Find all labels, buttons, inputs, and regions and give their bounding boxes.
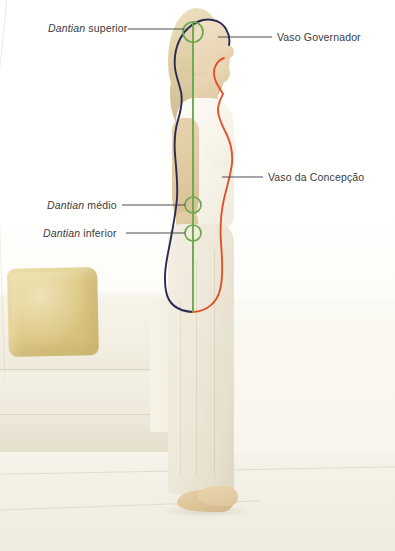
label-dantian-medio-qualifier: médio xyxy=(87,199,116,211)
label-dantian-inferior-term: Dantian xyxy=(43,227,80,239)
label-vaso-concepcao: Vaso da Concepção xyxy=(268,171,364,183)
vaso-concepcao-path xyxy=(193,58,232,312)
illustration-canvas: Dantian superior Dantian médio Dantian i… xyxy=(0,0,395,551)
label-dantian-superior-term: Dantian xyxy=(48,22,85,34)
vaso-governador-path xyxy=(165,19,229,312)
label-dantian-superior: Dantian superior xyxy=(48,22,127,34)
label-dantian-medio: Dantian médio xyxy=(47,199,117,211)
meridian-overlay xyxy=(0,0,395,551)
label-dantian-inferior-qualifier: inferior xyxy=(83,227,116,239)
label-vaso-governador: Vaso Governador xyxy=(277,31,361,43)
label-dantian-superior-qualifier: superior xyxy=(88,22,127,34)
label-vaso-concepcao-text: Vaso da Concepção xyxy=(268,171,364,183)
label-dantian-inferior: Dantian inferior xyxy=(43,227,117,239)
label-vaso-governador-text: Vaso Governador xyxy=(277,31,361,43)
label-dantian-medio-term: Dantian xyxy=(47,199,84,211)
